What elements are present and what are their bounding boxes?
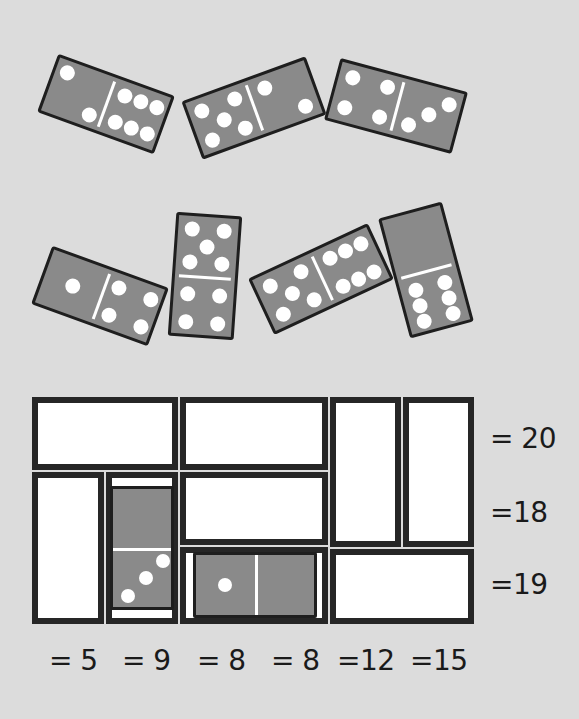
pip bbox=[364, 262, 384, 282]
pip bbox=[304, 290, 324, 310]
pip bbox=[415, 312, 433, 330]
pip bbox=[156, 554, 170, 568]
domino-0-6[interactable] bbox=[378, 202, 474, 339]
pip bbox=[106, 113, 125, 132]
pip bbox=[115, 86, 134, 105]
pip bbox=[215, 110, 234, 129]
pip bbox=[210, 316, 226, 332]
pip bbox=[139, 571, 153, 585]
grid-cell-c1-r2-3[interactable] bbox=[32, 472, 104, 624]
domino-1-4[interactable] bbox=[31, 246, 169, 347]
pip bbox=[282, 283, 302, 303]
pip bbox=[444, 304, 462, 322]
row-sum-2: =18 bbox=[490, 496, 548, 529]
pip bbox=[273, 304, 293, 324]
pip bbox=[216, 223, 232, 239]
pip bbox=[370, 108, 388, 126]
col-sum-6: =15 bbox=[410, 644, 468, 677]
row-sum-3: =19 bbox=[490, 568, 548, 601]
pip bbox=[99, 306, 118, 325]
pip bbox=[260, 276, 280, 296]
pip bbox=[109, 278, 128, 297]
grid-cell-c5-r1-2[interactable] bbox=[330, 397, 401, 547]
grid-cell-r1-c3-4[interactable] bbox=[180, 397, 328, 470]
grid-cell-c6-r1-2[interactable] bbox=[403, 397, 474, 547]
pip bbox=[212, 288, 228, 304]
domino-4-3[interactable] bbox=[324, 58, 468, 154]
pip bbox=[122, 118, 141, 137]
row-sum-1: = 20 bbox=[490, 422, 556, 455]
pip bbox=[192, 101, 211, 120]
pip bbox=[131, 92, 150, 111]
domino-divider bbox=[255, 555, 258, 615]
grid-cell-r1-c1-2[interactable] bbox=[32, 397, 178, 470]
pip bbox=[214, 256, 230, 272]
pip bbox=[199, 239, 215, 255]
col-sum-4: = 8 bbox=[271, 644, 320, 677]
pip bbox=[255, 78, 274, 97]
pip bbox=[399, 116, 417, 134]
col-sum-5: =12 bbox=[337, 644, 395, 677]
col-sum-2: = 9 bbox=[122, 644, 171, 677]
grid-cell-r3-c5-6[interactable] bbox=[330, 549, 474, 624]
pip bbox=[440, 96, 458, 114]
pip bbox=[344, 69, 362, 87]
domino-5-4[interactable] bbox=[168, 212, 242, 340]
domino-divider bbox=[113, 548, 171, 551]
domino-5-6[interactable] bbox=[248, 223, 394, 335]
pip bbox=[141, 290, 160, 309]
domino-2-6[interactable] bbox=[37, 54, 175, 155]
pip bbox=[131, 317, 150, 336]
pip bbox=[182, 254, 198, 270]
grid-cell-r2-c3-4[interactable] bbox=[180, 472, 328, 545]
pip bbox=[236, 119, 255, 138]
pip bbox=[291, 262, 311, 282]
pip bbox=[436, 273, 454, 291]
pip bbox=[80, 105, 99, 124]
pip bbox=[407, 281, 425, 299]
pip bbox=[296, 97, 315, 116]
placed-domino-1-0[interactable] bbox=[193, 552, 317, 618]
pip bbox=[121, 589, 135, 603]
pip bbox=[203, 131, 222, 150]
pip bbox=[180, 286, 196, 302]
pip bbox=[63, 276, 82, 295]
pip bbox=[58, 63, 77, 82]
pip bbox=[440, 289, 458, 307]
pip bbox=[336, 99, 354, 117]
pip bbox=[225, 89, 244, 108]
pip bbox=[147, 98, 166, 117]
pip bbox=[420, 106, 438, 124]
pip bbox=[351, 234, 371, 254]
domino-5-2[interactable] bbox=[181, 56, 326, 159]
col-sum-1: = 5 bbox=[49, 644, 98, 677]
pip bbox=[138, 124, 157, 143]
pip bbox=[378, 78, 396, 96]
pip bbox=[184, 221, 200, 237]
pip bbox=[218, 578, 232, 592]
col-sum-3: = 8 bbox=[197, 644, 246, 677]
pip bbox=[411, 297, 429, 315]
pip bbox=[178, 314, 194, 330]
domino-divider bbox=[179, 274, 231, 281]
placed-domino-0-3[interactable] bbox=[110, 486, 174, 610]
